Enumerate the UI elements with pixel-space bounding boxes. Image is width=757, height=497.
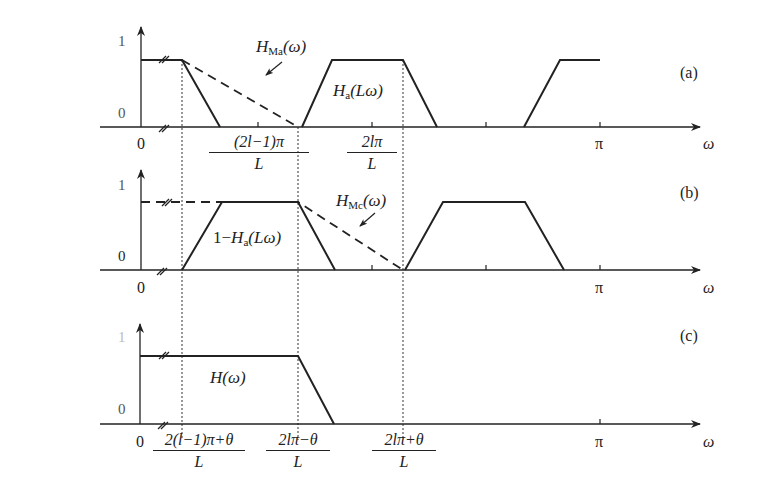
x-axis-label-c: ω: [703, 434, 714, 450]
x-label-tick1-c: 2(l−1)π+θ L: [153, 432, 245, 470]
x-axis-label-a: ω: [703, 136, 714, 152]
x-axis-label-b: ω: [703, 280, 714, 296]
x-label-tick3-c: 2lπ+θ L: [372, 432, 436, 470]
x-label-tick1-a: (2l−1)π L: [209, 134, 309, 172]
label-one-minus-ha: 1−Ha(Lω): [213, 229, 281, 248]
curve-h-omega-c: [140, 356, 334, 424]
diagram-canvas: [0, 0, 757, 497]
panel-a: [100, 27, 700, 132]
x-label-origin-a: 0: [137, 136, 145, 152]
panel-c: [100, 324, 700, 429]
pointer-arrow-hma: [266, 62, 282, 75]
panel-tag-b: (b): [680, 185, 699, 201]
panel-tag-a: (a): [680, 65, 698, 81]
panel-tag-c: (c): [680, 328, 698, 344]
x-label-pi-c: π: [595, 434, 603, 450]
panel-b: [100, 170, 700, 275]
x-label-pi-b: π: [595, 280, 603, 296]
x-label-tick2-a: 2lπ L: [347, 134, 397, 172]
label-h-omega: H(ω): [210, 369, 246, 386]
y-label-bottom-b: 0: [118, 249, 126, 264]
x-label-origin-b: 0: [137, 280, 145, 296]
curve-ha-right-a: [524, 60, 600, 127]
y-label-top-a: 1: [118, 34, 126, 49]
x-label-origin-c: 0: [136, 434, 144, 450]
axis-break-marks-c: [158, 352, 169, 429]
y-label-bottom-a: 0: [118, 106, 126, 121]
y-label-bottom-c: 0: [118, 402, 126, 417]
curve-one-minus-ha-right-b: [405, 202, 564, 270]
pointer-arrow-hmc: [360, 213, 375, 226]
axis-break-marks-b: [157, 199, 172, 275]
y-label-top-b: 1: [118, 178, 126, 193]
label-hma: HMa(ω): [256, 38, 306, 57]
label-hmc: HMc(ω): [336, 192, 386, 211]
x-label-pi-a: π: [595, 136, 603, 152]
curve-ha-lowpass-a: [141, 60, 220, 127]
ticks-a: [258, 122, 600, 127]
axis-break-marks-a: [159, 56, 169, 132]
label-ha-lomega-a: Ha(Lω): [333, 82, 383, 101]
y-label-top-c: 1: [118, 330, 126, 345]
curve-hma-dashed: [182, 60, 298, 127]
x-label-tick2-c: 2lπ−θ L: [266, 432, 330, 470]
